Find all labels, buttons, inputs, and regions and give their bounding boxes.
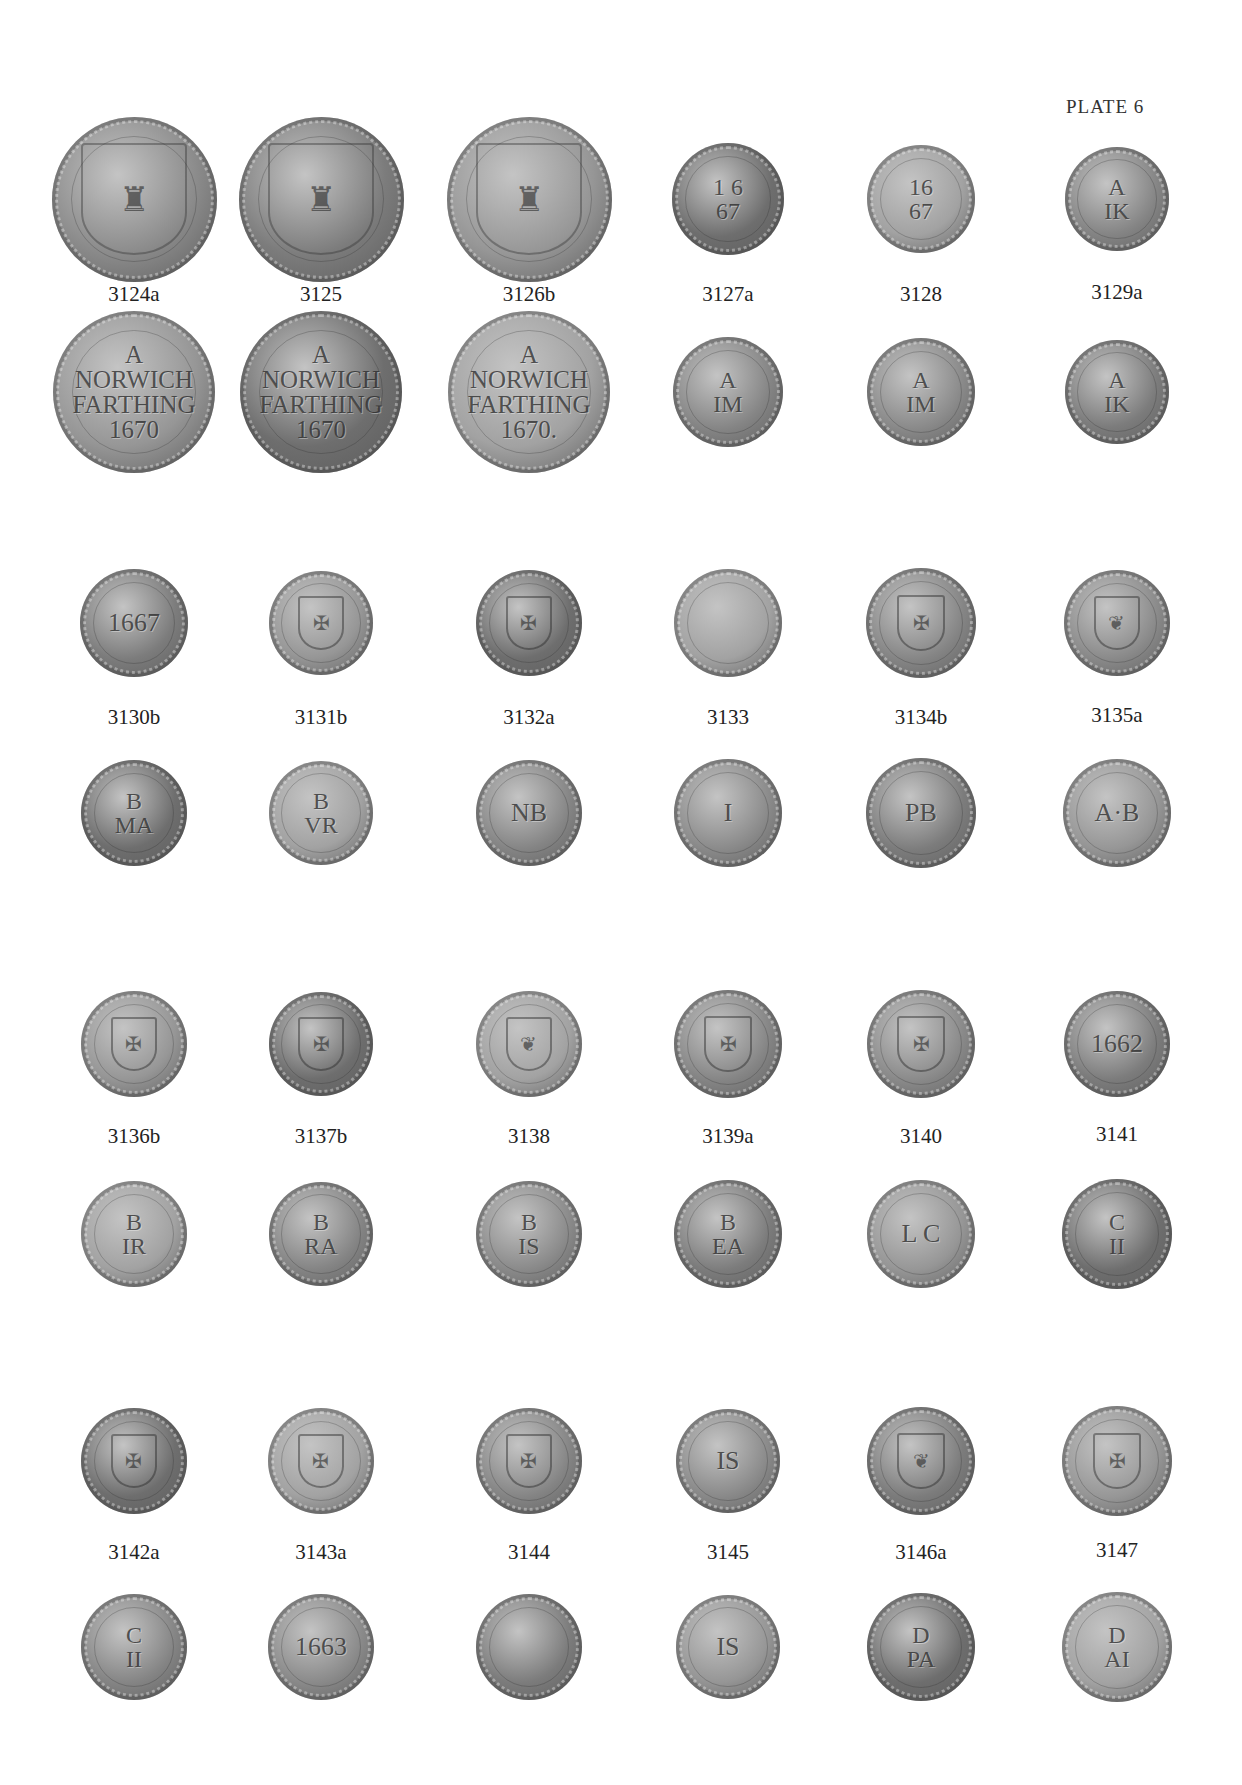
coin-obverse: 1662 (1064, 991, 1170, 1097)
coin-device-icon: ❦ (1094, 596, 1140, 651)
coin-obverse: ✠ (269, 571, 373, 675)
coin-obverse: ♜ (447, 117, 612, 282)
coin-reverse: NB (476, 760, 582, 866)
coin-catalog-number: 3135a (1047, 703, 1187, 728)
coin-reverse: A IK (1065, 340, 1169, 444)
coin-device-icon: ✠ (111, 1017, 157, 1072)
coin-reverse: 1663 (268, 1594, 374, 1700)
coin-obverse: ✠ (866, 568, 976, 678)
coin-inscription: PB (905, 800, 937, 826)
coin-reverse: B EA (674, 1180, 782, 1288)
coin-inscription: IS (716, 1634, 739, 1660)
coin-catalog-number: 3142a (64, 1540, 204, 1565)
coin-obverse: ✠ (476, 1408, 582, 1514)
coin-inscription: A IK (1104, 368, 1129, 416)
coin-reverse: A NORWICH FARTHING 1670. (448, 311, 610, 473)
coin-inscription: D PA (907, 1623, 935, 1671)
coin-reverse: I (674, 759, 782, 867)
coin-inscription: B EA (712, 1210, 744, 1258)
coin-inscription: B RA (304, 1210, 337, 1258)
coin-inscription: 1663 (295, 1634, 347, 1660)
coin-inscription: 1667 (108, 610, 160, 636)
coin-reverse: D PA (867, 1593, 975, 1701)
coin-reverse: IS (676, 1595, 780, 1699)
coin-inscription: B IR (122, 1210, 146, 1258)
coin-inscription: A IK (1104, 175, 1129, 223)
coin-inscription: A IM (906, 368, 935, 416)
shield-castle-lion-icon: ♜ (476, 143, 582, 256)
coin-obverse: 16 67 (867, 145, 975, 253)
coin-reverse: PB (866, 758, 976, 868)
coin-device-icon: ✠ (298, 1434, 344, 1489)
coin-inscription: C II (126, 1623, 142, 1671)
coin-catalog-number: 3139a (658, 1124, 798, 1149)
coin-device-icon: ✠ (298, 596, 344, 650)
coin-inscription: B MA (115, 789, 154, 837)
coin-reverse: C II (1062, 1179, 1172, 1289)
coin-catalog-number: 3140 (851, 1124, 991, 1149)
shield-castle-lion-icon: ♜ (268, 143, 374, 256)
coin-catalog-number: 3132a (459, 705, 599, 730)
coin-catalog-number: 3145 (658, 1540, 798, 1565)
coin-catalog-number: 3124a (64, 282, 204, 307)
coin-catalog-number: 3128 (851, 282, 991, 307)
coin-obverse: 1667 (80, 569, 188, 677)
coin-reverse: A·B (1063, 759, 1171, 867)
coin-obverse: A IK (1065, 147, 1169, 251)
coin-catalog-number: 3133 (658, 705, 798, 730)
coin-reverse: A NORWICH FARTHING 1670 (53, 311, 215, 473)
coin-inscription: D AI (1104, 1623, 1129, 1671)
coin-device-icon: ✠ (897, 595, 945, 652)
coin-reverse: L C (867, 1180, 975, 1288)
coin-obverse: ✠ (867, 990, 975, 1098)
coin-obverse: 1 6 67 (672, 143, 784, 255)
coin-catalog-number: 3146a (851, 1540, 991, 1565)
coin-inscription: C II (1109, 1210, 1125, 1258)
coin-reverse: B MA (81, 760, 187, 866)
coin-inscription: B IS (518, 1210, 539, 1258)
coin-reverse: C II (81, 1594, 187, 1700)
coin-reverse (476, 1594, 582, 1700)
coin-inscription: 1 6 67 (713, 175, 743, 223)
coin-catalog-number: 3147 (1047, 1538, 1187, 1563)
coin-obverse: ✠ (81, 991, 187, 1097)
coin-catalog-number: 3129a (1047, 280, 1187, 305)
coin-reverse: A IM (673, 337, 783, 447)
coin-catalog-number: 3141 (1047, 1122, 1187, 1147)
coin-device-icon: ✠ (111, 1434, 157, 1489)
coin-reverse: B RA (269, 1182, 373, 1286)
coin-catalog-number: 3136b (64, 1124, 204, 1149)
coin-catalog-number: 3126b (459, 282, 599, 307)
coin-inscription: A NORWICH FARTHING 1670. (467, 342, 590, 442)
coin-inscription: A NORWICH FARTHING 1670 (259, 342, 382, 442)
coin-catalog-number: 3138 (459, 1124, 599, 1149)
coin-inscription: NB (511, 800, 547, 826)
coin-reverse: B IR (81, 1181, 187, 1287)
plate-title: PLATE 6 (1066, 96, 1144, 118)
coin-obverse: ✠ (268, 1408, 374, 1514)
coin-catalog-number: 3131b (251, 705, 391, 730)
coin-obverse: ❦ (476, 991, 582, 1097)
coin-reverse: B VR (269, 761, 373, 865)
coin-device-icon: ✠ (506, 596, 552, 651)
coin-reverse: B IS (476, 1181, 582, 1287)
coin-catalog-number: 3127a (658, 282, 798, 307)
coin-reverse: A NORWICH FARTHING 1670 (240, 311, 402, 473)
coin-catalog-number: 3125 (251, 282, 391, 307)
coin-obverse: ✠ (476, 570, 582, 676)
coin-inscription: A·B (1095, 800, 1140, 826)
coin-catalog-number: 3137b (251, 1124, 391, 1149)
coin-device-icon: ❦ (506, 1017, 552, 1072)
coin-device-icon: ✠ (506, 1434, 552, 1489)
coin-inscription: 16 67 (909, 175, 933, 223)
coin-reverse: D AI (1062, 1592, 1172, 1702)
coin-device-icon: ❦ (897, 1433, 944, 1489)
coin-catalog-number: 3134b (851, 705, 991, 730)
coin-obverse: ✠ (81, 1408, 187, 1514)
coin-obverse: IS (676, 1409, 780, 1513)
coin-inscription: 1662 (1091, 1031, 1143, 1057)
coin-obverse: ❦ (867, 1407, 975, 1515)
coin-catalog-number: 3143a (251, 1540, 391, 1565)
coin-device-icon: ✠ (1093, 1433, 1141, 1490)
coin-obverse: ♜ (239, 117, 404, 282)
